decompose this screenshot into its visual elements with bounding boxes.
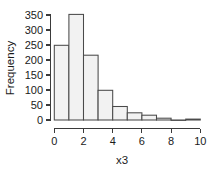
x-tick-label-6: 6 xyxy=(139,135,145,147)
x-tick-label-10: 10 xyxy=(194,135,206,147)
x-tick-label-2: 2 xyxy=(80,135,86,147)
bar-bin-6 xyxy=(142,115,157,120)
y-tick-label-200: 200 xyxy=(25,54,43,66)
y-tick-label-50: 50 xyxy=(31,99,43,111)
histogram-chart: 350 300 250 200 150 100 50 0 Frequency 0… xyxy=(0,0,215,172)
x-tick-label-4: 4 xyxy=(110,135,116,147)
bar-bin-1 xyxy=(69,14,84,120)
x-tick-label-8: 8 xyxy=(168,135,174,147)
y-tick-label-100: 100 xyxy=(25,84,43,96)
y-tick-label-0: 0 xyxy=(37,114,43,126)
y-tick-label-150: 150 xyxy=(25,69,43,81)
y-axis: 350 300 250 200 150 100 50 0 Frequency xyxy=(4,9,51,126)
y-tick-label-300: 300 xyxy=(25,24,43,36)
bars-group xyxy=(54,14,200,120)
x-tick-label-0: 0 xyxy=(51,135,57,147)
bar-bin-5 xyxy=(127,113,142,120)
bar-bin-9 xyxy=(186,119,201,120)
bar-bin-2 xyxy=(84,55,99,120)
histogram-svg: 350 300 250 200 150 100 50 0 Frequency 0… xyxy=(0,0,215,172)
y-tick-label-350: 350 xyxy=(25,9,43,21)
bar-bin-3 xyxy=(98,90,113,120)
bar-bin-0 xyxy=(54,45,69,120)
y-axis-title: Frequency xyxy=(4,41,16,96)
bar-bin-4 xyxy=(113,107,128,121)
x-axis: 0 2 4 6 8 10 x3 xyxy=(51,129,206,167)
bar-bin-7 xyxy=(157,118,172,120)
y-tick-label-250: 250 xyxy=(25,39,43,51)
x-axis-title: x3 xyxy=(116,154,128,166)
